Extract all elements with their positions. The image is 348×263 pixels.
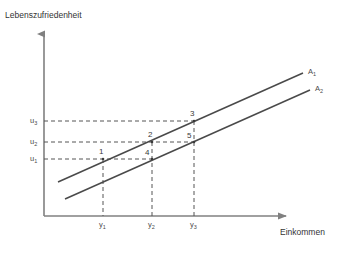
curve-label-a1: A1 xyxy=(308,68,316,76)
y-tick-u2-sub: 2 xyxy=(34,141,37,147)
curve-a2 xyxy=(65,90,310,199)
point-label-4: 4 xyxy=(145,149,149,157)
marker-point-1 xyxy=(102,158,105,161)
y-tick-label-u1: u1 xyxy=(30,155,37,163)
marker-point-2 xyxy=(151,141,154,144)
horizontal-guides xyxy=(44,121,194,159)
y-tick-u1-sub: 1 xyxy=(34,158,37,164)
curve-a1 xyxy=(58,73,303,182)
diagram-graphics xyxy=(0,0,348,263)
curves xyxy=(58,73,310,199)
marker-point-5 xyxy=(193,141,196,144)
x-tick-y1-sub: 1 xyxy=(103,224,106,230)
y-tick-u3-sub: 3 xyxy=(34,120,37,126)
point-label-5: 5 xyxy=(187,132,191,140)
x-tick-y2-sub: 2 xyxy=(152,224,155,230)
point-label-2: 2 xyxy=(148,131,152,139)
marker-point-3 xyxy=(193,120,196,123)
x-tick-y3-sub: 3 xyxy=(194,224,197,230)
point-label-1: 1 xyxy=(99,148,103,156)
axis-lines xyxy=(44,34,286,216)
diagram-canvas: Lebenszufriedenheit Einkommen xyxy=(0,0,348,263)
curve-label-a2: A2 xyxy=(315,85,323,93)
x-tick-label-y3: y3 xyxy=(190,221,197,229)
y-tick-label-u3: u3 xyxy=(30,117,37,125)
x-tick-label-y1: y1 xyxy=(99,221,106,229)
point-label-3: 3 xyxy=(190,110,194,118)
curve-a2-sub: 2 xyxy=(320,88,323,94)
curve-a1-sub: 1 xyxy=(313,71,316,77)
y-tick-label-u2: u2 xyxy=(30,138,37,146)
x-tick-label-y2: y2 xyxy=(148,221,155,229)
marker-point-4 xyxy=(151,158,154,161)
